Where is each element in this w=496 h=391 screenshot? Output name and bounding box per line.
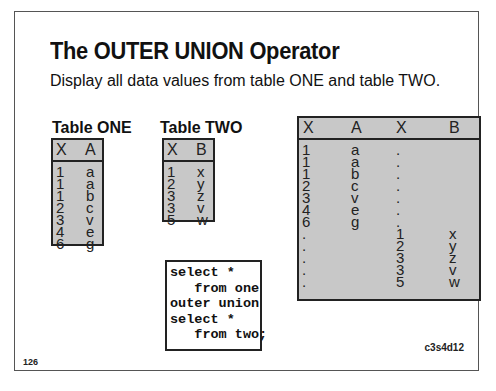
slide-subtitle: Display all data values from table ONE a… — [50, 72, 440, 90]
table-row: 2c. — [299, 180, 479, 192]
table-one-header: X A — [53, 140, 102, 162]
table-cell: 5 — [167, 214, 175, 226]
column-header: A — [351, 119, 362, 137]
table-row: 4e. — [299, 204, 479, 216]
table-one: X A 1a1a1b2c3v4e6g — [51, 138, 104, 246]
column-header: X — [396, 119, 407, 137]
table-cell: 5 — [396, 276, 404, 288]
table-cell: g — [351, 216, 359, 228]
slide-code: c3s4d12 — [425, 342, 464, 353]
table-two-label: Table TWO — [160, 119, 242, 137]
slide-title: The OUTER UNION Operator — [50, 38, 339, 65]
table-two-header: X B — [164, 140, 213, 162]
column-header: X — [303, 119, 314, 137]
table-row: .5w — [299, 276, 479, 288]
result-table-body: 1a.1a.1b.2c.3v.4e.6g..1x.2y.3z.3v.5w — [299, 140, 479, 288]
sql-code-block: select * from one outer union select * f… — [165, 260, 262, 351]
slide-frame: The OUTER UNION Operator Display all dat… — [14, 11, 479, 371]
table-row: 1a. — [299, 144, 479, 156]
table-cell: w — [197, 214, 208, 226]
table-row: 5w — [164, 214, 213, 226]
table-cell: g — [86, 238, 94, 250]
column-header: X — [167, 141, 178, 159]
result-table: X A X B 1a.1a.1b.2c.3v.4e.6g..1x.2y.3z.3… — [297, 116, 481, 301]
column-header: A — [85, 141, 96, 159]
column-header: B — [196, 141, 207, 159]
result-table-header: X A X B — [299, 118, 479, 140]
table-row: 6g — [53, 238, 102, 250]
table-one-body: 1a1a1b2c3v4e6g — [53, 162, 102, 250]
table-cell: . — [302, 276, 306, 288]
table-cell: w — [449, 276, 460, 288]
column-header: X — [56, 141, 67, 159]
page-number: 126 — [23, 357, 38, 367]
table-two-body: 1x2y3z3v5w — [164, 162, 213, 226]
column-header: B — [449, 119, 460, 137]
table-row: 1b. — [299, 168, 479, 180]
table-row: 1a. — [299, 156, 479, 168]
table-two: X B 1x2y3z3v5w — [162, 138, 215, 222]
table-one-label: Table ONE — [52, 119, 132, 137]
table-row: 3v. — [299, 192, 479, 204]
table-cell: 6 — [56, 238, 64, 250]
